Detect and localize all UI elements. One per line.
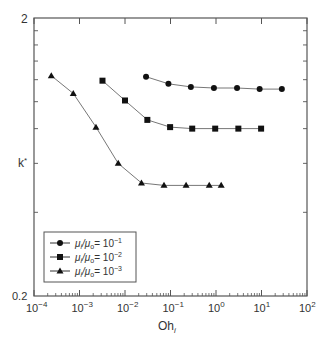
square-marker <box>235 126 241 132</box>
circle-marker <box>188 84 194 90</box>
y-axis-label: k* <box>18 156 27 170</box>
triangle-marker <box>183 182 190 188</box>
y-tick-label-bottom: 0.2 <box>12 290 27 302</box>
circle-marker <box>234 85 240 91</box>
circle-marker <box>165 81 171 87</box>
square-marker <box>57 254 63 260</box>
x-tick-label: 102 <box>299 300 316 314</box>
data-series <box>48 72 285 188</box>
triangle-marker <box>92 124 99 130</box>
square-marker <box>99 78 105 84</box>
triangle-marker <box>218 182 225 188</box>
x-tick-label: 100 <box>208 300 225 314</box>
circle-marker <box>279 86 285 92</box>
circle-marker <box>211 85 217 91</box>
series-circle <box>143 74 285 92</box>
x-tick-label: 10−4 <box>26 300 48 314</box>
circle-marker <box>57 240 63 246</box>
square-marker <box>122 97 128 103</box>
x-tick-label: 10−3 <box>72 300 94 314</box>
triangle-marker <box>48 72 55 78</box>
square-marker <box>189 126 195 132</box>
square-marker <box>167 124 173 130</box>
chart: 10−410−310−210−110010110220.2 k* Ohi μi/… <box>0 0 326 343</box>
x-tick-label: 10−2 <box>117 300 139 314</box>
triangle-marker <box>115 160 122 166</box>
triangle-marker <box>206 182 213 188</box>
square-marker <box>144 117 150 123</box>
series-triangle <box>48 72 225 188</box>
x-axis-label: Ohi <box>158 319 176 335</box>
circle-marker <box>143 74 149 80</box>
x-tick-label: 10−1 <box>163 300 185 314</box>
y-tick-label-top: 2 <box>21 12 28 26</box>
square-marker <box>258 126 264 132</box>
square-marker <box>212 126 218 132</box>
legend: μi/μo= 10−1μi/μo= 10−2μi/μo= 10−3 <box>44 232 136 282</box>
circle-marker <box>257 86 263 92</box>
x-tick-label: 101 <box>254 300 271 314</box>
series-line <box>51 76 221 186</box>
